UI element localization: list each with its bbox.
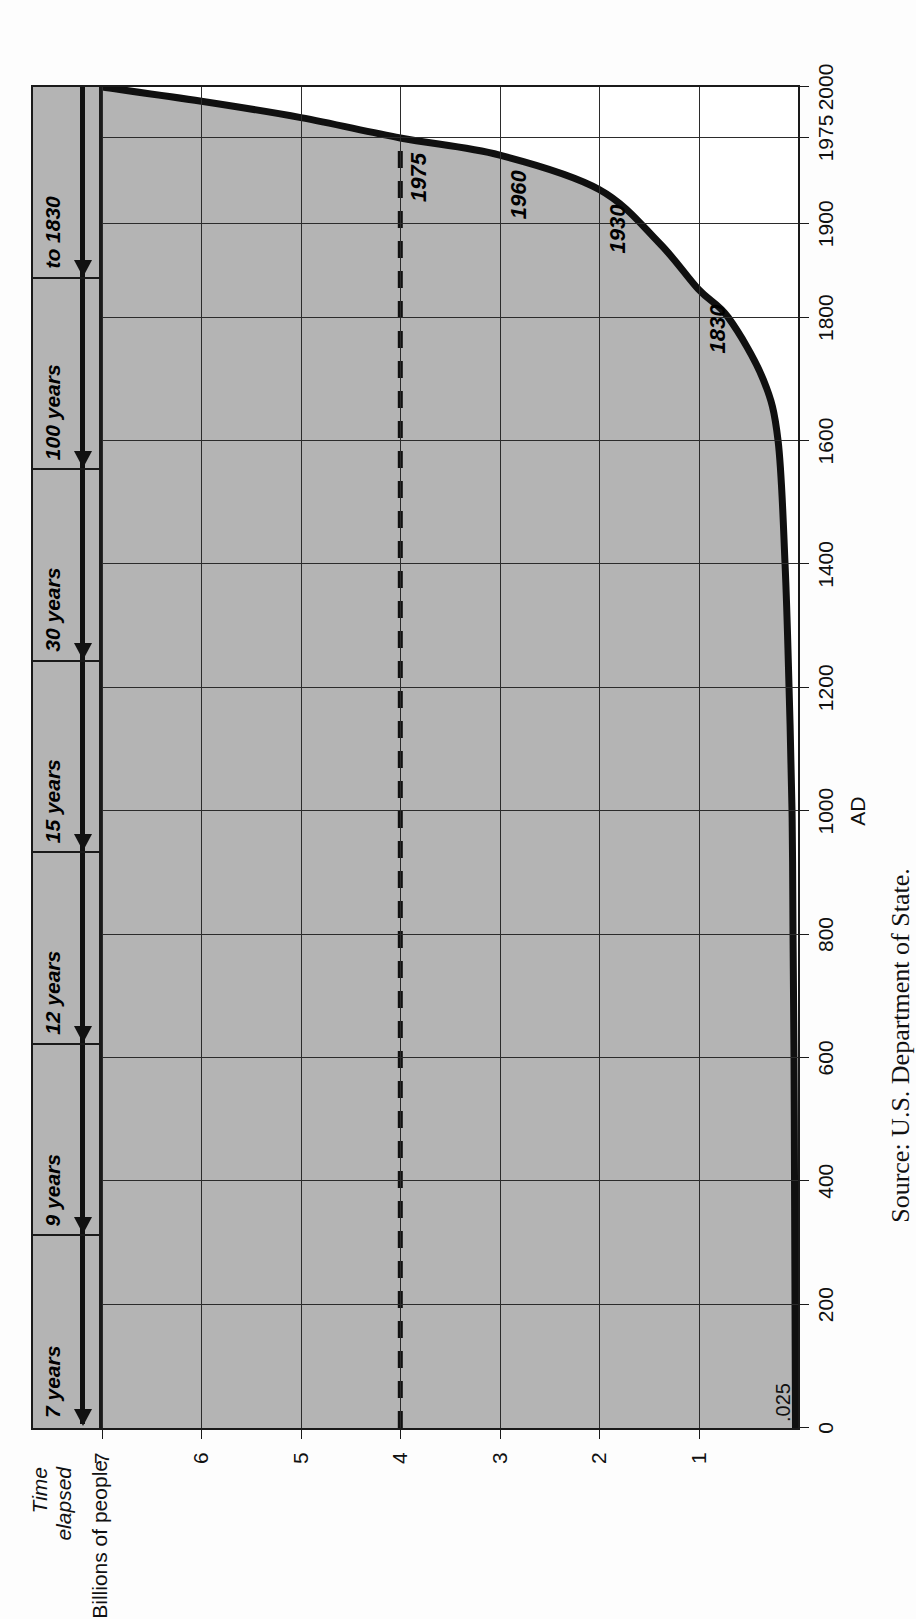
x-tick-1900 [798,223,809,224]
y-tick-label-3: 3 [488,1452,512,1464]
gridline-year-200 [102,1304,798,1305]
gridline-year-1600 [102,440,798,441]
band-arrowhead-1 [74,451,92,468]
band-segment-label-to-1830: to 1830 [41,196,65,268]
x-tick-1800 [798,317,809,318]
gridline-year-1200 [102,687,798,688]
era-marker-1930: 1930 [605,205,631,254]
band-arrowhead-2 [74,643,92,660]
band-divider-5 [33,1043,99,1045]
y-tick-6 [201,1429,202,1439]
y-tick-3 [500,1429,501,1439]
x-tick-label-1400: 1400 [814,541,838,588]
x-tick-600 [798,1057,809,1058]
y-tick-label-5: 5 [289,1452,313,1464]
x-tick-label-2000: 2000 [814,64,838,111]
time-elapsed-title-line1: Time [28,1467,52,1541]
time-elapsed-title-line2: elapsed [52,1467,76,1541]
era-marker-1975: 1975 [406,153,432,202]
time-elapsed-title: Time elapsed [28,1467,76,1541]
band-divider-2 [33,468,99,470]
x-tick-1600 [798,440,809,441]
y-tick-label-4: 4 [388,1452,412,1464]
x-tick-400 [798,1180,809,1181]
x-tick-label-400: 400 [814,1164,838,1199]
y-tick-7 [102,1429,103,1439]
gridline-year-1400 [102,563,798,564]
origin-value-note: .025 [772,1383,795,1422]
x-tick-200 [798,1304,809,1305]
gridline-year-600 [102,1057,798,1058]
x-axis-label: AD [846,797,870,826]
gridline-year-800 [102,934,798,935]
band-divider-6 [33,1234,99,1236]
population-curve-svg [102,87,798,1428]
x-tick-label-200: 200 [814,1287,838,1322]
x-tick-label-0: 0 [814,1422,838,1434]
shaded-area-path [102,87,796,1428]
gridline-year-1800 [102,317,798,318]
band-arrowhead-4 [74,1026,92,1043]
gridline-billions-5 [301,87,302,1428]
era-marker-1960: 1960 [506,170,532,219]
x-tick-label-1900: 1900 [814,200,838,247]
x-tick-label-1600: 1600 [814,418,838,465]
y-tick-2 [599,1429,600,1439]
gridline-billions-3 [500,87,501,1428]
band-divider-3 [33,660,99,662]
y-tick-1 [699,1429,700,1439]
gridline-billions-2 [599,87,600,1428]
band-arrowhead-5 [74,1217,92,1234]
gridline-year-1000 [102,810,798,811]
x-tick-label-1200: 1200 [814,664,838,711]
y-tick-5 [301,1429,302,1439]
gridline-billions-7 [102,87,103,1428]
band-segment-label-100-years: 100 years [41,364,65,460]
x-tick-800 [798,934,809,935]
gridline-billions-4 [400,87,401,1428]
x-tick-label-600: 600 [814,1040,838,1075]
band-arrowhead-0 [74,260,92,277]
band-arrowhead-3 [74,834,92,851]
time-elapsed-band: to 1830100 years30 years15 years12 years… [31,85,101,1430]
gridline-year-400 [102,1180,798,1181]
y-tick-4 [400,1429,401,1439]
x-tick-1400 [798,563,809,564]
x-tick-label-1975: 1975 [814,115,838,162]
gridline-year-1975 [102,137,798,138]
y-tick-label-6: 6 [189,1452,213,1464]
shaded-region-wrapper [102,87,798,1428]
band-segment-label-30-years: 30 years [41,568,65,652]
plot-area [100,85,800,1430]
gridline-billions-1 [699,87,700,1428]
x-tick-label-800: 800 [814,917,838,952]
x-tick-label-1000: 1000 [814,788,838,835]
y-tick-label-1: 1 [687,1452,711,1464]
y-axis-label: Billions of people [88,1460,112,1619]
gridline-billions-6 [201,87,202,1428]
source-caption: Source: U.S. Department of State. [886,868,916,1223]
x-tick-label-1800: 1800 [814,294,838,341]
x-tick-0 [798,1427,809,1428]
y-tick-label-2: 2 [587,1452,611,1464]
x-tick-2000 [798,86,809,87]
x-tick-1975 [798,137,809,138]
band-segment-label-7-years: 7 years [41,1346,65,1418]
x-tick-1000 [798,810,809,811]
band-divider-4 [33,851,99,853]
band-segment-label-15-years: 15 years [41,759,65,843]
x-tick-1200 [798,687,809,688]
band-segment-label-9-years: 9 years [41,1154,65,1226]
gridline-year-1900 [102,223,798,224]
era-marker-1830: 1830 [705,305,731,354]
band-segment-label-12-years: 12 years [41,951,65,1035]
band-arrowhead-6 [74,1409,92,1426]
